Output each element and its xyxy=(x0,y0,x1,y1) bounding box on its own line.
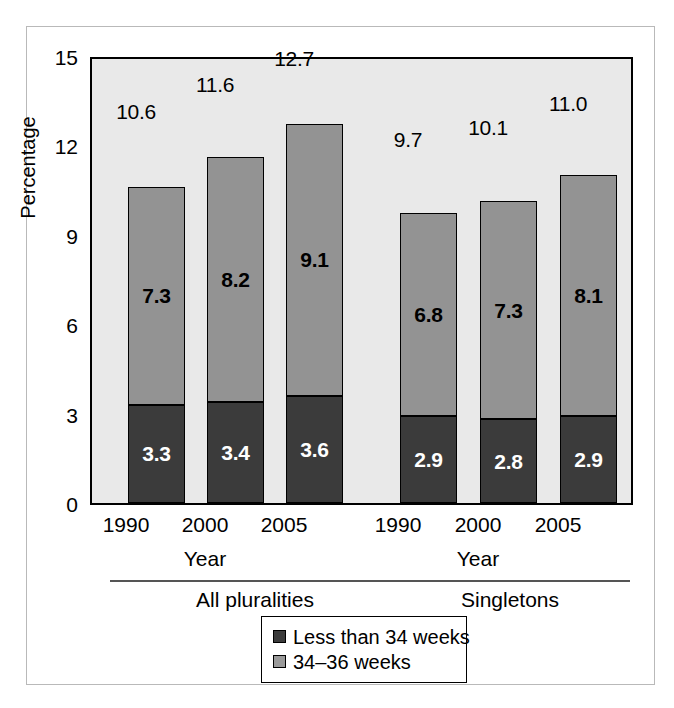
bar-segment-less34[interactable]: 3.3 xyxy=(128,405,185,504)
bar-total-ap-2005: 12.7 xyxy=(254,48,334,69)
legend-label-less34: Less than 34 weeks xyxy=(293,627,470,647)
group-title-right: Singletons xyxy=(390,589,630,610)
x-axis-title-right: Year xyxy=(398,548,558,569)
group-rule-left xyxy=(110,580,400,582)
bar-value-34to36: 7.3 xyxy=(142,285,170,306)
x-tick-label-sg-1990: 1990 xyxy=(358,514,438,535)
bar-segment-less34[interactable]: 3.6 xyxy=(286,396,343,504)
x-tick-label-ap-2005: 2005 xyxy=(244,514,324,535)
bar-value-less34: 3.6 xyxy=(300,439,328,460)
bar-total-sg-1990: 9.7 xyxy=(368,129,448,150)
y-tick-label-9: 9 xyxy=(44,226,78,247)
legend-swatch-icon-34to36 xyxy=(273,655,286,668)
bar-value-34to36: 7.3 xyxy=(494,300,522,321)
y-tick-label-15: 15 xyxy=(44,47,78,68)
bar-value-less34: 3.4 xyxy=(221,442,249,463)
bar-total-sg-2000: 10.1 xyxy=(448,117,528,138)
bar-segment-34to36[interactable]: 7.3 xyxy=(128,187,185,405)
bar-segment-less34[interactable]: 2.9 xyxy=(560,416,617,503)
bar-value-less34: 3.3 xyxy=(142,443,170,464)
x-axis-title-left: Year xyxy=(125,548,285,569)
legend-swatch-icon-less34 xyxy=(273,630,286,643)
x-tick-label-sg-2005: 2005 xyxy=(518,514,598,535)
plot-area: 3.3 7.3 3.4 8.2 3.6 9.1 xyxy=(90,57,633,505)
bar-segment-34to36[interactable]: 8.2 xyxy=(207,157,264,402)
y-tick-label-12: 12 xyxy=(44,136,78,157)
bar-segment-34to36[interactable]: 8.1 xyxy=(560,175,617,417)
y-tick-label-0: 0 xyxy=(44,494,78,515)
bar-segment-34to36[interactable]: 6.8 xyxy=(400,213,457,416)
bar-total-ap-2000: 11.6 xyxy=(175,74,255,95)
group-rule-right xyxy=(385,580,630,582)
bar-value-less34: 2.8 xyxy=(494,451,522,472)
y-tick-label-3: 3 xyxy=(44,405,78,426)
y-tick-label-6: 6 xyxy=(44,315,78,336)
bar-segment-less34[interactable]: 2.8 xyxy=(480,419,537,503)
x-tick-label-ap-1990: 1990 xyxy=(86,514,166,535)
x-tick-label-ap-2000: 2000 xyxy=(165,514,245,535)
bar-value-34to36: 6.8 xyxy=(414,304,442,325)
legend-item-less34[interactable]: Less than 34 weeks xyxy=(273,624,456,649)
group-title-left: All pluralities xyxy=(135,589,375,610)
bar-total-sg-2005: 11.0 xyxy=(528,93,608,114)
bar-value-34to36: 9.1 xyxy=(300,249,328,270)
legend: Less than 34 weeks 34–36 weeks xyxy=(261,616,467,683)
bar-value-34to36: 8.2 xyxy=(221,269,249,290)
legend-label-34to36: 34–36 weeks xyxy=(293,652,411,672)
bar-segment-34to36[interactable]: 7.3 xyxy=(480,201,537,419)
x-tick-label-sg-2000: 2000 xyxy=(438,514,518,535)
bar-segment-34to36[interactable]: 9.1 xyxy=(286,124,343,396)
bar-value-less34: 2.9 xyxy=(414,449,442,470)
y-axis-label: Percentage xyxy=(17,88,40,248)
bar-total-ap-1990: 10.6 xyxy=(96,101,176,122)
legend-item-34to36[interactable]: 34–36 weeks xyxy=(273,649,456,674)
plot-inner: 3.3 7.3 3.4 8.2 3.6 9.1 xyxy=(92,59,631,503)
bar-segment-less34[interactable]: 2.9 xyxy=(400,416,457,503)
bar-value-less34: 2.9 xyxy=(574,449,602,470)
chart-figure: 15 12 9 6 3 0 Percentage 3.3 7.3 3.4 xyxy=(0,0,674,708)
bar-value-34to36: 8.1 xyxy=(574,285,602,306)
bar-segment-less34[interactable]: 3.4 xyxy=(207,402,264,504)
